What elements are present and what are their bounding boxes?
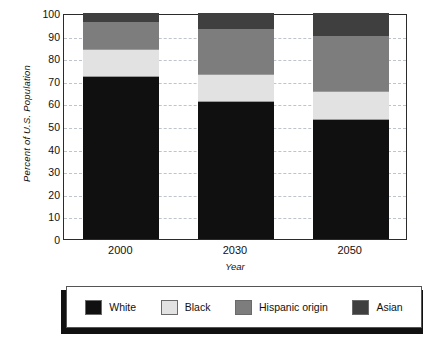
y-axis-tick-label: 80 xyxy=(30,53,60,65)
x-axis-tick-label: 2000 xyxy=(75,244,165,256)
y-axis-tick-label: 90 xyxy=(30,31,60,43)
x-axis-title: Year xyxy=(63,261,407,272)
legend-item-asian[interactable]: Asian xyxy=(352,300,402,315)
plot-area xyxy=(63,14,407,240)
bar-segment-asian xyxy=(313,13,389,36)
bar-segment-black xyxy=(83,49,159,77)
x-axis-tick-label: 2030 xyxy=(190,244,280,256)
stacked-bar-chart-figure: Percent of U.S. Population 0102030405060… xyxy=(0,0,436,341)
bar-2050 xyxy=(313,13,389,239)
plot-inner xyxy=(64,15,406,239)
legend-item-hispanic-origin[interactable]: Hispanic origin xyxy=(235,300,328,315)
y-axis-tick-label: 60 xyxy=(30,98,60,110)
bar-segment-hispanic-origin xyxy=(313,36,389,91)
legend-swatch-icon xyxy=(161,300,178,315)
legend-item-white[interactable]: White xyxy=(85,300,136,315)
legend-label: White xyxy=(109,301,136,313)
bar-segment-asian xyxy=(83,13,159,22)
y-axis-title: Percent of U.S. Population xyxy=(21,34,32,214)
bar-2000 xyxy=(83,13,159,239)
bar-segment-hispanic-origin xyxy=(83,22,159,49)
y-axis-tick-label: 20 xyxy=(30,189,60,201)
bar-segment-black xyxy=(313,91,389,120)
legend-label: Asian xyxy=(376,301,402,313)
bar-segment-black xyxy=(198,74,274,102)
y-axis-tick-label: 30 xyxy=(30,166,60,178)
y-axis-tick-label: 70 xyxy=(30,76,60,88)
bar-segment-white xyxy=(313,120,389,239)
y-axis-tick-label: 10 xyxy=(30,211,60,223)
legend-swatch-icon xyxy=(85,300,102,315)
legend-label: Black xyxy=(185,301,211,313)
bar-segment-white xyxy=(198,102,274,239)
y-axis-tick-label: 40 xyxy=(30,144,60,156)
bar-segment-white xyxy=(83,77,159,239)
bar-segment-hispanic-origin xyxy=(198,29,274,74)
legend-swatch-icon xyxy=(235,300,252,315)
legend-label: Hispanic origin xyxy=(259,301,328,313)
chart-legend: WhiteBlackHispanic originAsian xyxy=(66,286,422,328)
bar-segment-asian xyxy=(198,13,274,29)
y-axis-tick-label: 50 xyxy=(30,121,60,133)
bar-2030 xyxy=(198,13,274,239)
legend-item-black[interactable]: Black xyxy=(161,300,211,315)
y-axis-tick-label: 100 xyxy=(30,8,60,20)
x-axis-tick-label: 2050 xyxy=(305,244,395,256)
legend-swatch-icon xyxy=(352,300,369,315)
y-axis-tick-label: 0 xyxy=(30,234,60,246)
